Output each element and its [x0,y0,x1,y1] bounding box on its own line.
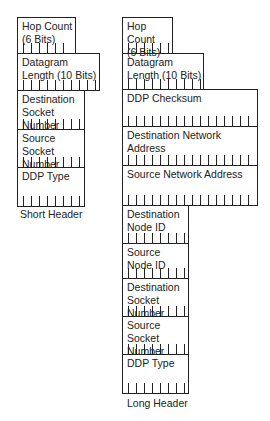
bit-ticks [128,306,192,316]
bit-tick [160,155,161,165]
bit-tick [136,195,137,205]
bit-tick [184,233,185,243]
bit-tick [160,43,161,53]
bit-ticks [128,383,192,393]
bit-tick [176,383,177,393]
short-source-socket-field: Source Socket Number [17,129,85,168]
bit-tick [144,344,145,354]
bit-tick [55,196,56,206]
long-ddp-type-field: DDP Type [122,354,189,394]
bit-tick [79,119,80,129]
long-source-network-field: Source Network Address [122,165,258,206]
bit-tick [63,119,64,129]
bit-tick [39,43,40,53]
bit-tick [176,195,177,205]
bit-tick [128,43,129,53]
long-source-node-field: Source Node ID [122,243,189,279]
bit-tick [128,233,129,243]
bit-tick [224,195,225,205]
bit-tick [168,268,169,278]
bit-tick [63,157,64,167]
bit-tick [160,383,161,393]
bit-ticks [23,80,103,90]
bit-tick [144,43,145,53]
bit-tick [47,80,48,90]
bit-tick [31,157,32,167]
bit-tick [136,268,137,278]
bit-tick [128,79,129,89]
bit-tick [152,306,153,316]
bit-tick [208,155,209,165]
bit-ticks [128,43,176,53]
long-source-socket-field: Source Socket Number [122,316,189,355]
bit-tick [136,43,137,53]
field-label: Datagram Length (10 Bits) [22,56,96,82]
bit-tick [79,196,80,206]
bit-tick [152,79,153,89]
bit-tick [71,119,72,129]
bit-tick [160,233,161,243]
bit-tick [248,195,249,205]
bit-tick [184,155,185,165]
bit-tick [47,157,48,167]
bit-tick [23,80,24,90]
bit-tick [55,80,56,90]
short-datagram-length-field: Datagram Length (10 Bits) [17,53,100,91]
field-label: DDP Checksum [127,92,202,105]
field-label: Destination Node ID [127,208,180,234]
short-destination-socket-field: Destination Socket Number [17,90,85,130]
bit-tick [152,116,153,126]
short-hop-count-field: Hop Count (6 Bits) [17,17,76,54]
bit-tick [95,80,96,90]
bit-tick [87,80,88,90]
bit-tick [184,195,185,205]
bit-tick [128,344,129,354]
bit-tick [184,79,185,89]
bit-tick [136,79,137,89]
bit-tick [184,344,185,354]
long-ddp-checksum-field: DDP Checksum [122,89,258,127]
bit-tick [144,155,145,165]
bit-ticks [23,157,87,167]
bit-tick [176,79,177,89]
bit-tick [216,195,217,205]
bit-tick [63,43,64,53]
bit-tick [23,119,24,129]
bit-tick [200,195,201,205]
bit-tick [79,157,80,167]
bit-tick [168,79,169,89]
long-destination-network-field: Destination Network Address [122,126,258,166]
bit-tick [79,80,80,90]
bit-tick [176,344,177,354]
bit-tick [208,116,209,126]
bit-tick [240,155,241,165]
bit-tick [63,196,64,206]
bit-tick [152,344,153,354]
bit-tick [71,157,72,167]
bit-ticks [128,116,256,126]
bit-tick [55,43,56,53]
bit-tick [136,344,137,354]
bit-tick [224,116,225,126]
bit-tick [176,268,177,278]
bit-tick [144,116,145,126]
bit-ticks [128,233,192,243]
long-destination-node-field: Destination Node ID [122,205,189,244]
bit-tick [240,195,241,205]
bit-tick [144,233,145,243]
bit-tick [192,116,193,126]
bit-tick [224,155,225,165]
field-label: DDP Type [22,170,69,183]
bit-tick [31,196,32,206]
bit-tick [128,116,129,126]
bit-tick [232,195,233,205]
bit-tick [168,233,169,243]
bit-tick [168,116,169,126]
bit-tick [176,233,177,243]
bit-tick [160,195,161,205]
bit-tick [23,43,24,53]
bit-ticks [128,268,192,278]
bit-tick [216,116,217,126]
bit-tick [216,155,217,165]
bit-tick [47,119,48,129]
